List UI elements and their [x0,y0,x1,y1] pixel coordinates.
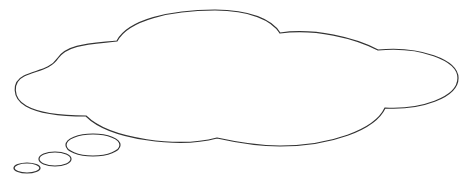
thought-bubble-canvas [0,0,471,186]
thought-trail-bubble-small [14,163,40,173]
thought-trail-bubble-large [66,134,120,156]
thought-trail-bubble-medium [39,152,71,166]
thought-cloud [15,10,458,146]
